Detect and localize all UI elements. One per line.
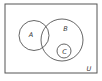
set-b-label: B <box>63 25 68 33</box>
set-c-label: C <box>62 48 67 56</box>
set-a-circle <box>19 21 49 51</box>
set-a-label: A <box>28 31 33 39</box>
venn-diagram: A B C U <box>0 0 102 81</box>
universe-label: U <box>87 65 92 73</box>
